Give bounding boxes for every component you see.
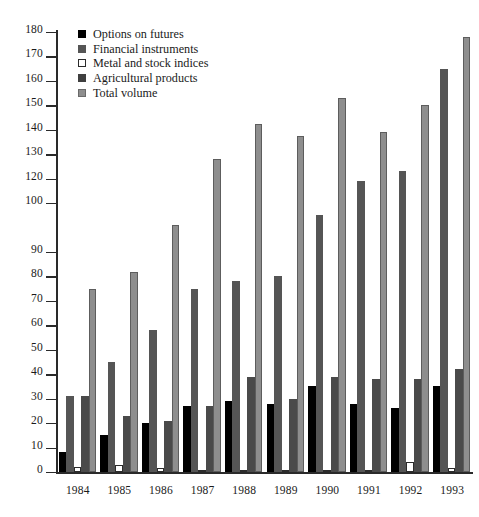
y-axis-tick: 180 [0, 32, 57, 33]
y-axis-tick: 160 [0, 81, 57, 82]
bar-1991-series-2 [365, 470, 372, 472]
bar-1986-series-4 [172, 225, 179, 472]
bar-1991-series-4 [380, 132, 387, 472]
bar-1986-series-2 [157, 468, 164, 472]
bar-1988-series-1 [232, 281, 239, 472]
y-axis-tick-label: 0 [37, 464, 43, 475]
y-axis-tick-label: 180 [25, 24, 43, 35]
y-axis-tick-mark [46, 301, 57, 302]
bar-1992-series-1 [399, 171, 406, 472]
legend-item: Financial instruments [78, 42, 208, 57]
bar-1986-series-3 [164, 421, 171, 472]
y-axis-tick-mark [46, 448, 57, 449]
bar-chart: 0102030405060708090100120130140150160170… [0, 0, 479, 517]
bar-1986-series-0 [142, 423, 149, 472]
legend-item-label: Metal and stock indices [93, 57, 208, 69]
swatch-dark-gray-icon [78, 45, 86, 53]
y-axis-tick: 140 [0, 130, 57, 131]
y-axis-tick-label: 20 [31, 415, 43, 426]
y-axis-tick: 90 [0, 252, 57, 253]
bar-1989-series-0 [267, 404, 274, 472]
y-axis-tick: 20 [0, 423, 57, 424]
bar-group [267, 32, 304, 472]
bar-1989-series-3 [289, 399, 296, 472]
y-axis-tick-mark [46, 32, 57, 33]
swatch-light-gray-icon [78, 89, 86, 97]
y-axis-tick-label: 50 [31, 342, 43, 353]
y-axis-tick: 70 [0, 301, 57, 302]
y-axis-tick-label: 80 [31, 268, 43, 279]
bar-1988-series-4 [255, 124, 262, 472]
y-axis-tick-mark [46, 350, 57, 351]
x-axis-label: 1989 [265, 484, 307, 496]
y-axis-tick: 30 [0, 399, 57, 400]
y-axis-tick-label: 160 [25, 73, 43, 84]
bar-1990-series-4 [338, 98, 345, 472]
y-axis-tick-label: 90 [31, 244, 43, 255]
legend-item-label: Financial instruments [93, 43, 198, 55]
y-axis-tick-mark [46, 423, 57, 424]
bar-1991-series-3 [372, 379, 379, 472]
y-axis-tick: 80 [0, 276, 57, 277]
y-axis-tick-mark [46, 179, 57, 180]
bar-1993-series-1 [440, 69, 447, 472]
swatch-textured-dark-icon [78, 74, 86, 82]
x-axis-label: 1988 [223, 484, 265, 496]
y-axis-tick-mark [46, 81, 57, 82]
y-axis-tick: 130 [0, 154, 57, 155]
y-axis-tick-mark [46, 374, 57, 375]
bar-1985-series-2 [115, 465, 122, 472]
x-axis-label: 1990 [307, 484, 349, 496]
bar-1987-series-2 [198, 470, 205, 472]
y-axis-tick-mark [46, 276, 57, 277]
bar-group [433, 32, 470, 472]
bar-1984-series-2 [74, 467, 81, 472]
bar-1988-series-3 [247, 377, 254, 472]
y-axis-tick-mark [46, 472, 57, 473]
bar-1993-series-4 [463, 37, 470, 472]
y-axis-tick: 40 [0, 374, 57, 375]
legend-item-label: Agricultural products [93, 72, 198, 84]
bar-1987-series-4 [213, 159, 220, 472]
x-axis-label: 1987 [182, 484, 224, 496]
y-axis-tick: 100 [0, 203, 57, 204]
bar-1987-series-0 [183, 406, 190, 472]
bar-1987-series-1 [191, 289, 198, 472]
y-axis-tick-label: 150 [25, 97, 43, 108]
y-axis-tick: 120 [0, 179, 57, 180]
legend-item: Metal and stock indices [78, 56, 208, 71]
y-axis-tick-mark [46, 325, 57, 326]
y-axis-tick-label: 30 [31, 391, 43, 402]
bar-1991-series-0 [350, 404, 357, 472]
legend-item-label: Total volume [93, 87, 157, 99]
bar-group [225, 32, 262, 472]
bar-1987-series-3 [206, 406, 213, 472]
bar-1989-series-4 [297, 136, 304, 472]
y-axis-tick-label: 170 [25, 48, 43, 59]
y-axis-tick-mark [46, 154, 57, 155]
legend-item: Agricultural products [78, 71, 208, 86]
swatch-white-icon [78, 59, 86, 67]
bar-1992-series-2 [406, 462, 413, 472]
bar-1989-series-2 [282, 470, 289, 472]
bar-1993-series-3 [455, 369, 462, 472]
bar-1984-series-0 [59, 452, 66, 472]
y-axis-tick: 60 [0, 325, 57, 326]
y-axis-tick: 50 [0, 350, 57, 351]
bar-1991-series-1 [357, 181, 364, 472]
bar-1990-series-2 [323, 470, 330, 472]
bar-1989-series-1 [274, 276, 281, 472]
bar-group [350, 32, 387, 472]
chart-legend: Options on futuresFinancial instrumentsM… [78, 27, 208, 100]
y-axis-tick-label: 60 [31, 317, 43, 328]
legend-item-label: Options on futures [93, 28, 184, 40]
bar-1986-series-1 [149, 330, 156, 472]
y-axis-tick: 10 [0, 448, 57, 449]
bar-1992-series-4 [421, 105, 428, 472]
y-axis-tick: 150 [0, 105, 57, 106]
x-axis-line [56, 472, 473, 474]
bar-1990-series-1 [316, 215, 323, 472]
bar-1984-series-4 [89, 289, 96, 472]
x-axis-label: 1991 [348, 484, 390, 496]
y-axis-tick-mark [46, 203, 57, 204]
